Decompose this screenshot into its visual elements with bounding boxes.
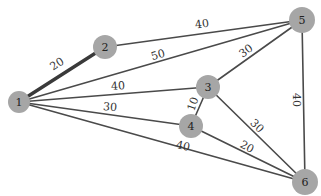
node-label: 5 [299, 14, 306, 27]
graph-node-4: 4 [179, 114, 203, 138]
edge-weight-label: 40 [194, 17, 210, 32]
graph-node-2: 2 [93, 35, 117, 59]
edge-3-5 [208, 20, 302, 87]
nodes-layer: 123456 [8, 7, 318, 195]
node-label: 2 [102, 41, 109, 54]
edge-weight-label: 40 [175, 138, 191, 154]
edge-weight-label: 20 [48, 55, 67, 74]
graph-node-5: 5 [289, 7, 315, 33]
weighted-graph-diagram: 2040504030403010302040 123456 [0, 0, 321, 196]
edge-weight-label: 30 [247, 116, 266, 135]
edge-weight-label: 40 [290, 93, 303, 107]
edge-1-6 [19, 102, 305, 182]
graph-node-6: 6 [292, 169, 318, 195]
node-label: 6 [302, 176, 309, 189]
edge-1-2 [19, 47, 105, 102]
edge-weight-label: 30 [237, 42, 256, 61]
edge-weight-label: 20 [238, 138, 256, 156]
edge-weight-label: 10 [184, 95, 201, 113]
node-label: 4 [188, 120, 195, 133]
graph-node-1: 1 [8, 91, 30, 113]
node-label: 1 [16, 96, 23, 109]
graph-node-3: 3 [196, 75, 220, 99]
node-label: 3 [205, 81, 212, 94]
edges-layer [19, 20, 305, 182]
edge-weight-label: 30 [102, 100, 117, 114]
edge-weight-label: 40 [111, 79, 126, 93]
